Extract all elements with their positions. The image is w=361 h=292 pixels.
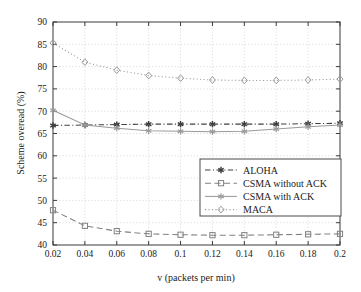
y-tick-label: 85 xyxy=(38,40,48,50)
y-axis-title: Scheme overead (%) xyxy=(15,91,27,174)
y-tick-label: 65 xyxy=(38,129,48,139)
legend-label-maca: MACA xyxy=(243,204,274,215)
legend-label-csma-without-ack: CSMA without ACK xyxy=(243,178,328,189)
x-tick-label: 0.06 xyxy=(108,249,125,259)
line-chart: 4045505560657075808590 0.020.040.060.080… xyxy=(0,0,361,292)
y-tick-label: 55 xyxy=(38,174,48,184)
x-axis-tick-labels: 0.020.040.060.080.10.120.140.160.180.2 xyxy=(45,249,347,259)
x-tick-label: 0.2 xyxy=(334,249,346,259)
y-tick-label: 50 xyxy=(38,196,48,206)
x-tick-label: 0.02 xyxy=(45,249,62,259)
chart-figure: 4045505560657075808590 0.020.040.060.080… xyxy=(0,0,361,292)
y-tick-label: 90 xyxy=(38,17,48,27)
x-tick-label: 0.12 xyxy=(204,249,221,259)
x-tick-label: 0.1 xyxy=(175,249,187,259)
x-tick-label: 0.14 xyxy=(236,249,253,259)
legend-label-csma-with-ack: CSMA with ACK xyxy=(243,191,315,202)
x-axis-title: v (packets per min) xyxy=(157,272,234,284)
y-tick-label: 60 xyxy=(38,151,48,161)
y-tick-label: 80 xyxy=(38,62,48,72)
chart-legend: ALOHACSMA without ACKCSMA with ACKMACA xyxy=(200,159,341,216)
x-tick-label: 0.16 xyxy=(268,249,285,259)
y-tick-label: 70 xyxy=(38,107,48,117)
x-tick-label: 0.18 xyxy=(300,249,317,259)
y-axis-tick-labels: 4045505560657075808590 xyxy=(38,17,48,250)
y-tick-label: 45 xyxy=(38,218,48,228)
legend-label-aloha: ALOHA xyxy=(243,165,279,176)
x-tick-label: 0.08 xyxy=(140,249,157,259)
y-tick-label: 75 xyxy=(38,84,48,94)
x-tick-label: 0.04 xyxy=(77,249,94,259)
